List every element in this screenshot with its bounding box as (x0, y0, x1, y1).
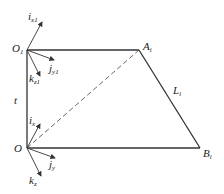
label-jy: jy (47, 158, 56, 172)
label-b: Bi (203, 147, 212, 161)
label-link: Li (172, 84, 181, 98)
label-t: t (14, 94, 18, 106)
kinematic-diagram: ix1 O1 jy1 kz1 Ai Li t ix O jy kz Bi (0, 0, 224, 194)
label-ix1: ix1 (28, 10, 38, 24)
label-a: Ai (142, 40, 152, 54)
edge-a-b (139, 50, 200, 148)
label-o: O (14, 142, 22, 154)
label-kz: kz (29, 174, 37, 188)
label-jy1: jy1 (47, 62, 59, 76)
label-kz1: kz1 (29, 72, 40, 86)
ix1-arrow-icon (27, 22, 42, 50)
diagram-svg: ix1 O1 jy1 kz1 Ai Li t ix O jy kz Bi (0, 0, 224, 194)
edge-o-a-dashed (27, 50, 139, 148)
label-o1: O1 (12, 42, 23, 56)
label-ix: ix (29, 114, 36, 128)
